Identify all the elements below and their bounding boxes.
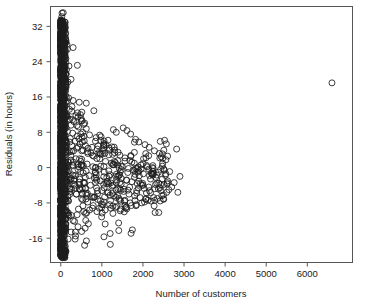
y-axis-title: Residuals (in hours) [3, 92, 14, 176]
residual-scatter-figure: 0100020003000400050006000 -16-808162432 … [0, 0, 365, 304]
scatter-plot-svg: 0100020003000400050006000 -16-808162432 … [0, 0, 365, 304]
y-tick-label: 16 [32, 91, 43, 102]
y-tick-label: 0 [37, 162, 42, 173]
x-tick-label: 3000 [173, 268, 194, 279]
figure-background [0, 0, 365, 304]
x-tick-label: 4000 [215, 268, 236, 279]
x-tick-label: 1000 [91, 268, 112, 279]
y-tick-label: -8 [34, 197, 42, 208]
y-tick-label: 8 [37, 127, 42, 138]
x-tick-label: 5000 [256, 268, 277, 279]
x-tick-label: 6000 [297, 268, 318, 279]
x-axis-title: Number of customers [156, 288, 247, 299]
x-tick-label: 0 [58, 268, 63, 279]
y-tick-label: 24 [32, 56, 43, 67]
y-tick-label: 32 [32, 21, 43, 32]
y-tick-label: -16 [29, 233, 43, 244]
x-tick-label: 2000 [132, 268, 153, 279]
